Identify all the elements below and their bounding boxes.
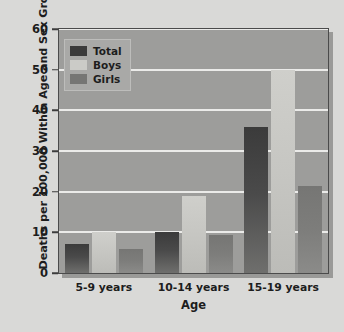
legend-item-boys: Boys	[70, 58, 122, 72]
legend-label-total: Total	[93, 45, 122, 57]
y-axis-tick-label: 20	[0, 185, 48, 199]
bar-girls-1	[209, 235, 233, 273]
y-axis-tick-mark	[52, 232, 58, 234]
bar-total-0	[65, 244, 89, 273]
y-axis-tick-mark	[52, 69, 58, 71]
y-axis-tick-label: 30	[0, 144, 48, 158]
bar-boys-2	[271, 70, 295, 273]
chart-legend: Total Boys Girls	[64, 39, 131, 91]
legend-label-girls: Girls	[93, 73, 120, 85]
bar-total-1	[155, 232, 179, 273]
legend-label-boys: Boys	[93, 59, 121, 71]
bar-total-2	[244, 127, 268, 273]
x-axis-category-label: 15-19 years	[223, 281, 343, 294]
bar-girls-2	[298, 186, 322, 273]
bar-boys-1	[182, 196, 206, 273]
bar-girls-0	[119, 249, 143, 273]
legend-item-girls: Girls	[70, 72, 122, 86]
y-axis-tick-mark	[52, 150, 58, 152]
y-axis-tick-mark	[52, 191, 58, 193]
x-axis-title: Age	[58, 298, 329, 312]
gridline	[59, 28, 328, 30]
y-axis-tick-label: 40	[0, 103, 48, 117]
y-axis-tick-mark	[52, 110, 58, 112]
y-axis-tick-label: 10	[0, 225, 48, 239]
bar-chart-figure: Deaths per 100,000 Within Age and Sex Gr…	[0, 0, 344, 332]
legend-item-total: Total	[70, 44, 122, 58]
y-axis-tick-label: 0	[0, 266, 48, 280]
bar-boys-0	[92, 232, 116, 273]
legend-swatch-total-icon	[70, 46, 87, 56]
y-axis-tick-mark	[52, 28, 58, 30]
y-axis-tick-label: 50	[0, 63, 48, 77]
y-axis-tick-label: 60	[0, 22, 48, 36]
legend-swatch-boys-icon	[70, 60, 87, 70]
y-axis-tick-mark	[52, 272, 58, 274]
legend-swatch-girls-icon	[70, 74, 87, 84]
